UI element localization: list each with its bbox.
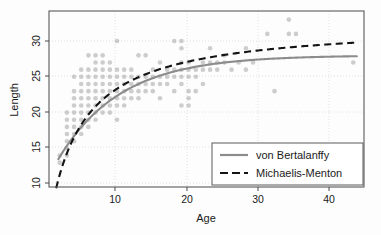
data-point xyxy=(122,103,127,108)
data-point xyxy=(172,89,177,94)
data-point xyxy=(136,53,141,58)
data-point xyxy=(93,82,98,87)
data-point xyxy=(108,89,113,94)
data-point xyxy=(115,82,120,87)
y-tick-label-15: 15 xyxy=(30,141,42,153)
y-tick-label-20: 20 xyxy=(30,106,42,118)
y-tick-label-10: 10 xyxy=(30,177,42,189)
data-point xyxy=(100,75,105,80)
data-point xyxy=(93,117,98,122)
data-point xyxy=(65,117,70,122)
data-point xyxy=(179,75,184,80)
data-point xyxy=(129,67,134,72)
data-point xyxy=(100,53,105,58)
data-point xyxy=(108,75,113,80)
data-point xyxy=(115,103,120,108)
data-point xyxy=(122,67,127,72)
data-point xyxy=(186,96,191,101)
data-point xyxy=(136,89,141,94)
data-point xyxy=(193,89,198,94)
data-point xyxy=(79,103,84,108)
data-point xyxy=(79,82,84,87)
data-point xyxy=(136,96,141,101)
data-point xyxy=(108,103,113,108)
data-point xyxy=(179,82,184,87)
data-point xyxy=(79,96,84,101)
data-point xyxy=(100,82,105,87)
data-point xyxy=(272,89,277,94)
data-point xyxy=(165,75,170,80)
data-point xyxy=(193,75,198,80)
data-point xyxy=(186,103,191,108)
data-point xyxy=(100,89,105,94)
data-point xyxy=(65,132,70,137)
x-tick-label-10: 10 xyxy=(109,193,121,205)
data-point xyxy=(86,103,91,108)
data-point xyxy=(100,67,105,72)
data-point xyxy=(100,60,105,65)
data-point xyxy=(72,117,77,122)
data-point xyxy=(108,110,113,115)
x-tick-label-30: 30 xyxy=(252,193,264,205)
y-tick-label-30: 30 xyxy=(30,35,42,47)
y-tick-label-25: 25 xyxy=(30,70,42,82)
data-point xyxy=(108,82,113,87)
data-point xyxy=(201,82,206,87)
data-point xyxy=(86,82,91,87)
data-point xyxy=(129,75,134,80)
data-point xyxy=(158,82,163,87)
data-point xyxy=(172,75,177,80)
scatter-plot-svg: 10 20 30 40 10 15 20 25 30 Age Length vo… xyxy=(0,0,381,235)
data-point xyxy=(229,67,234,72)
data-point xyxy=(93,53,98,58)
x-axis-ticks xyxy=(115,187,329,191)
data-point xyxy=(165,82,170,87)
data-point xyxy=(172,39,177,44)
data-point xyxy=(115,75,120,80)
data-point xyxy=(108,60,113,65)
data-point xyxy=(93,67,98,72)
data-point xyxy=(186,75,191,80)
data-point xyxy=(93,60,98,65)
data-point xyxy=(143,53,148,58)
data-point xyxy=(72,89,77,94)
data-point xyxy=(86,96,91,101)
data-point xyxy=(115,39,120,44)
data-point xyxy=(151,89,156,94)
data-point xyxy=(208,46,213,51)
legend: von Bertalanffy Michaelis-Menton xyxy=(212,143,363,185)
data-point xyxy=(265,32,270,37)
data-point xyxy=(93,89,98,94)
x-tick-label-20: 20 xyxy=(181,193,193,205)
data-point xyxy=(86,53,91,58)
y-axis-ticks xyxy=(45,41,49,183)
data-point xyxy=(79,67,84,72)
data-point xyxy=(93,75,98,80)
data-point xyxy=(179,103,184,108)
data-point xyxy=(143,89,148,94)
data-point xyxy=(201,60,206,65)
data-point xyxy=(122,96,127,101)
data-point xyxy=(129,89,134,94)
data-point xyxy=(208,67,213,72)
data-point xyxy=(79,75,84,80)
data-point xyxy=(215,67,220,72)
legend-label-michaelis-menton: Michaelis-Menton xyxy=(256,167,342,179)
legend-label-von-bertalanffy: von Bertalanffy xyxy=(256,149,330,161)
data-point xyxy=(122,75,127,80)
data-point xyxy=(158,96,163,101)
data-point xyxy=(86,67,91,72)
data-point xyxy=(65,110,70,115)
data-point xyxy=(129,96,134,101)
data-point xyxy=(65,125,70,130)
data-point xyxy=(86,89,91,94)
data-point xyxy=(287,17,292,22)
chart-figure: 10 20 30 40 10 15 20 25 30 Age Length vo… xyxy=(0,0,381,235)
data-point xyxy=(93,96,98,101)
data-point xyxy=(79,132,84,137)
data-point xyxy=(86,125,91,130)
data-point xyxy=(57,160,62,165)
x-tick-label-40: 40 xyxy=(323,193,335,205)
data-point xyxy=(72,96,77,101)
data-point xyxy=(294,32,299,37)
